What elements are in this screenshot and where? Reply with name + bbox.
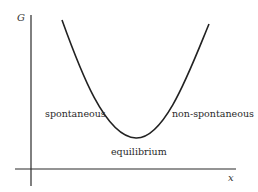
equilibrium-label: equilibrium	[111, 146, 167, 157]
non-spontaneous-label: non-spontaneous	[172, 108, 254, 119]
spontaneous-label: spontaneous	[45, 108, 106, 119]
gibbs-energy-curve	[62, 20, 209, 138]
y-axis-label: G	[17, 12, 25, 23]
x-axis-label: x	[228, 172, 234, 183]
gibbs-energy-diagram: G x spontaneous non-spontaneous equilibr…	[0, 0, 258, 192]
